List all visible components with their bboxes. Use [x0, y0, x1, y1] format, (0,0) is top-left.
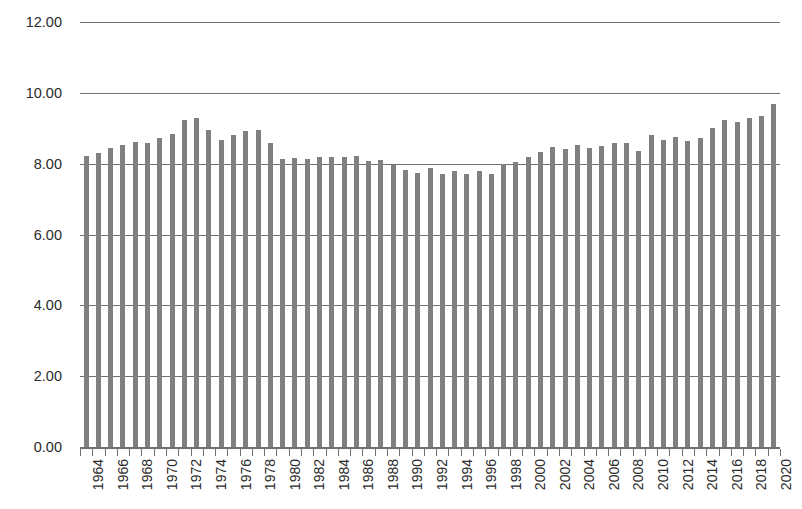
- x-axis-tick-label: 1998: [509, 459, 523, 490]
- y-axis-tick-label: 6.00: [0, 228, 62, 243]
- bar: [231, 135, 236, 447]
- bar: [292, 158, 297, 447]
- x-axis-tick: [743, 449, 744, 456]
- x-axis-tick-label: 2000: [533, 459, 547, 490]
- x-axis-tick-label: 1986: [361, 459, 375, 490]
- bar: [256, 130, 261, 447]
- bar: [305, 159, 310, 447]
- x-axis-tick-label: 1990: [410, 459, 424, 490]
- x-axis-tick: [105, 449, 106, 456]
- x-axis-tick: [350, 449, 351, 456]
- x-axis-tick-label: 2010: [656, 459, 670, 490]
- bar: [599, 146, 604, 447]
- x-axis-tick-label: 1988: [386, 459, 400, 490]
- bar: [526, 157, 531, 447]
- x-axis-tick: [252, 449, 253, 456]
- x-axis-tick: [129, 449, 130, 456]
- x-axis-tick: [706, 449, 707, 456]
- x-axis-tick: [424, 449, 425, 456]
- x-axis-tick-label: 1992: [435, 459, 449, 490]
- bar: [354, 156, 359, 447]
- x-axis-tick-label: 2004: [582, 459, 596, 490]
- bar: [710, 128, 715, 447]
- x-axis-tick-label: 2014: [705, 459, 719, 490]
- bar: [96, 153, 101, 447]
- x-axis-tick: [289, 449, 290, 456]
- x-axis-tick: [191, 449, 192, 456]
- bar: [735, 122, 740, 447]
- bar: [428, 168, 433, 447]
- y-axis-tick-label: 8.00: [0, 157, 62, 172]
- y-axis-tick-label: 12.00: [0, 15, 62, 30]
- x-axis-tick: [780, 449, 781, 456]
- x-axis-tick: [412, 449, 413, 456]
- bar: [624, 143, 629, 447]
- bar: [280, 159, 285, 447]
- bar: [145, 143, 150, 447]
- bar: [84, 156, 89, 447]
- x-axis-tick: [178, 449, 179, 456]
- x-axis-tick: [547, 449, 548, 456]
- x-axis-tick-label: 1974: [214, 459, 228, 490]
- bar: [501, 164, 506, 447]
- x-axis-tick-label: 1996: [484, 459, 498, 490]
- x-axis: 1964196619681970197219741976197819801982…: [80, 449, 780, 509]
- x-axis-tick: [584, 449, 585, 456]
- x-axis-tick-label: 1984: [337, 459, 351, 490]
- bar: [157, 138, 162, 447]
- x-axis-tick-label: 1976: [239, 459, 253, 490]
- bar: [182, 120, 187, 447]
- bar: [575, 145, 580, 447]
- x-axis-tick: [559, 449, 560, 456]
- y-axis-tick-label: 10.00: [0, 86, 62, 101]
- x-axis-tick: [166, 449, 167, 456]
- bar: [206, 130, 211, 447]
- bar: [722, 120, 727, 447]
- x-axis-tick-label: 1968: [140, 459, 154, 490]
- x-axis-tick: [473, 449, 474, 456]
- x-axis-tick: [264, 449, 265, 456]
- bar: [194, 118, 199, 447]
- bar: [440, 174, 445, 447]
- x-axis-tick: [80, 449, 81, 456]
- bar: [698, 138, 703, 447]
- x-axis-tick: [534, 449, 535, 456]
- bar: [415, 173, 420, 447]
- y-axis-tick-label: 2.00: [0, 369, 62, 384]
- bar: [170, 134, 175, 447]
- x-axis-tick: [375, 449, 376, 456]
- x-axis-tick: [461, 449, 462, 456]
- x-axis-tick: [485, 449, 486, 456]
- x-axis-tick: [768, 449, 769, 456]
- bar: [661, 140, 666, 447]
- x-axis-tick: [154, 449, 155, 456]
- bar: [268, 143, 273, 447]
- x-axis-tick-label: 1980: [288, 459, 302, 490]
- bar: [612, 143, 617, 447]
- bars-series: [80, 22, 780, 447]
- bar: [120, 145, 125, 447]
- bar: [464, 174, 469, 447]
- x-axis-tick-label: 2020: [779, 459, 793, 490]
- bar: [563, 149, 568, 447]
- x-axis-tick-label: 1978: [263, 459, 277, 490]
- x-axis-tick: [92, 449, 93, 456]
- x-axis-tick: [633, 449, 634, 456]
- bar: [771, 104, 776, 447]
- bar: [636, 151, 641, 447]
- x-axis-tick: [227, 449, 228, 456]
- bar: [219, 140, 224, 447]
- bar: [759, 116, 764, 447]
- x-axis-tick: [498, 449, 499, 456]
- x-axis-tick: [436, 449, 437, 456]
- x-axis-tick: [313, 449, 314, 456]
- x-axis-tick-label: 2002: [558, 459, 572, 490]
- x-axis-tick: [731, 449, 732, 456]
- bar: [108, 148, 113, 447]
- x-axis-tick: [448, 449, 449, 456]
- bar: [243, 131, 248, 447]
- x-axis-tick: [645, 449, 646, 456]
- x-axis-tick: [682, 449, 683, 456]
- bar: [342, 157, 347, 447]
- x-axis-tick: [620, 449, 621, 456]
